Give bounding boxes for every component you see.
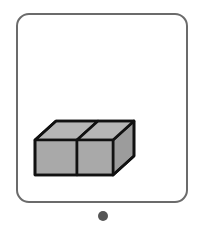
- bullet-label: [0, 0, 1, 1]
- answer-choice-card[interactable]: [16, 13, 188, 203]
- screenshot-canvas: Two unit cubes joined side by side, draw…: [0, 0, 204, 231]
- figure-description: Two unit cubes joined side by side, draw…: [0, 0, 1, 1]
- bullet-point-marker[interactable]: [98, 211, 108, 221]
